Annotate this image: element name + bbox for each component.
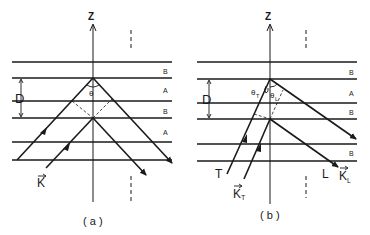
spacing-label-b: D [202, 92, 211, 107]
wavevector-label-transverse-b: K [233, 187, 241, 201]
z-axis-label-a: Z [88, 11, 94, 22]
angle-label-theta-a: θ [89, 89, 94, 98]
caption-a: ( a ) [83, 215, 103, 227]
wavevector-sub-longitudinal-b: L [347, 177, 351, 184]
angle-label-theta-t-sub-b: T [256, 93, 260, 99]
wavevector-label-a: K [37, 176, 45, 190]
spacing-label-a: D [15, 91, 24, 106]
layer-interfaces-a [12, 62, 172, 160]
ray-longitudinal-2-b [270, 119, 338, 167]
wavefront-dashed-a [93, 99, 112, 118]
ray-reflected-1-a [93, 78, 172, 163]
panel-b: Z θ T θ L D B A B B T L K T [197, 11, 357, 221]
layer-label-a-1: A [163, 87, 168, 94]
wavevector-sub-transverse-b: T [241, 194, 246, 201]
ray-incident-1-a [17, 78, 93, 160]
wavevector-label-longitudinal-b: K [339, 169, 347, 183]
layer-label-b-0: B [349, 69, 354, 76]
angle-arc-longitudinal-b [270, 84, 277, 87]
layer-label-a-0: B [163, 68, 168, 75]
mode-label-transverse-b: T [215, 167, 223, 181]
layer-label-b-1: A [349, 90, 354, 97]
layer-label-b-3: B [349, 150, 354, 157]
angle-label-theta-l-sub-b: L [275, 96, 278, 102]
mode-label-longitudinal-b: L [322, 167, 329, 181]
ray-transverse-1-b [227, 79, 270, 174]
caption-b: ( b ) [260, 209, 280, 221]
wavefront-dashed-a [72, 101, 93, 118]
z-axis-label-b: Z [265, 11, 271, 22]
ray-longitudinal-1-b [270, 79, 356, 139]
layer-label-a-2: B [163, 108, 168, 115]
panel-a: Z θ D B A B A K ( a ) [12, 11, 172, 227]
layer-interfaces-b [197, 62, 357, 161]
diagram-canvas: Z θ D B A B A K ( a ) [0, 0, 370, 235]
layer-label-b-2: B [349, 109, 354, 116]
layer-label-a-3: A [163, 129, 168, 136]
wavefront-dashed-b [254, 114, 270, 119]
